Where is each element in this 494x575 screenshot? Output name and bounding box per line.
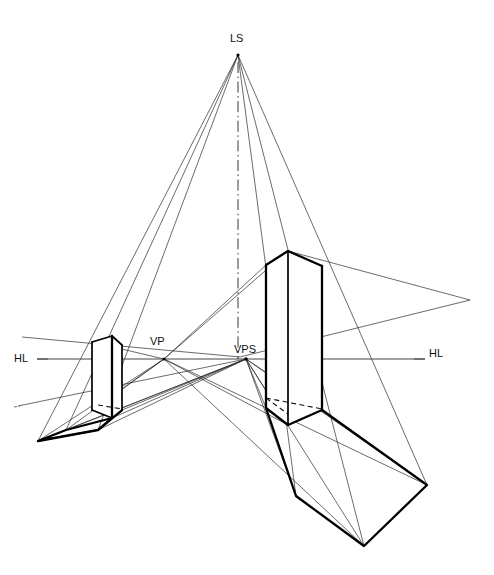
construction-line-upper-left bbox=[22, 337, 240, 357]
right-object-right-face bbox=[288, 251, 322, 425]
light-rays-group bbox=[38, 55, 427, 546]
right-object-group bbox=[266, 251, 427, 546]
label-horizon-left: HL bbox=[14, 352, 28, 364]
ls-marker bbox=[236, 53, 239, 56]
vp-marker bbox=[162, 357, 165, 360]
ground-trace-left-dash bbox=[14, 406, 20, 407]
label-vanishing-point-shadow: VPS bbox=[234, 343, 256, 355]
vps-ray-to-left-object-right bbox=[122, 359, 246, 410]
light-ray-to-left-shadow-tip bbox=[38, 55, 238, 441]
left-object-group bbox=[38, 336, 122, 441]
vps-marker bbox=[244, 357, 248, 361]
drawing-canvas: LS VP VPS HL HL bbox=[0, 0, 494, 575]
label-horizon-right: HL bbox=[429, 347, 443, 359]
label-vanishing-point: VP bbox=[150, 335, 165, 347]
perspective-shadow-diagram: LS VP VPS HL HL bbox=[0, 0, 494, 575]
label-light-source: LS bbox=[230, 32, 243, 44]
construction-lines-group bbox=[14, 251, 470, 546]
left-object-side-face bbox=[112, 336, 122, 418]
